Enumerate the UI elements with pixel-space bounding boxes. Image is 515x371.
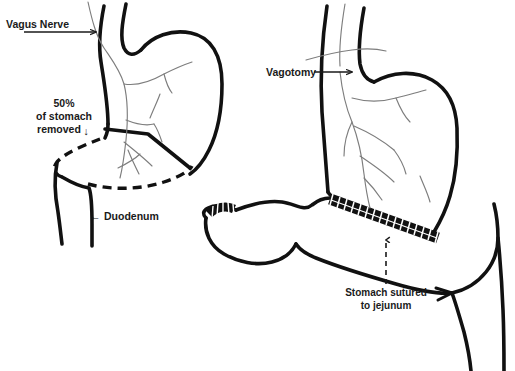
sutured-label-line2: to jejunum (361, 300, 412, 311)
duodenum-label: Duodenum (104, 210, 159, 222)
surgical-diagram-figure: Vagus Nerve 50% of stomach removed ↓ ← D… (0, 0, 515, 371)
removed-label-line1: 50% (53, 97, 75, 109)
vagotomy-label: Vagotomy (266, 66, 316, 78)
removed-down-arrow-icon: ↓ (83, 125, 88, 137)
diagram-canvas: Vagus Nerve 50% of stomach removed ↓ ← D… (0, 0, 515, 371)
vagus-nerve-label: Vagus Nerve (6, 18, 69, 30)
removed-label-line2: of stomach (36, 110, 92, 122)
duodenum-left-arrow-icon: ← (90, 210, 101, 222)
sutured-label-line1: Stomach sutured (345, 287, 427, 298)
removed-label-line3: removed (37, 123, 81, 135)
